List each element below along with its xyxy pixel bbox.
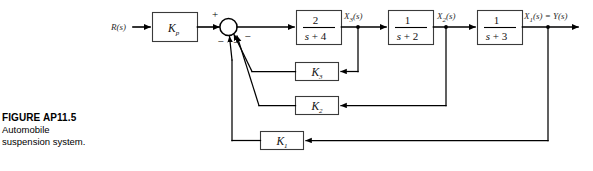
transfer-function-2-numerator: 1 [405,14,411,26]
signal-label-x2: X2(s) [436,11,456,24]
wire-k1-to-sum [230,37,233,61]
transfer-function-3-denominator: s + 3 [486,30,508,42]
input-label-rs: R(s) [110,22,126,32]
transfer-function-1-denominator: s + 4 [305,30,327,42]
summing-junction-minus-sign-3: − [245,30,251,42]
gain-k3: K3 [296,63,339,82]
transfer-function-2: 1 s + 2 [389,11,434,45]
summing-junction: + − − − [212,8,251,48]
transfer-function-1-numerator: 2 [313,14,319,26]
signal-label-x3: X3(s) [343,11,363,24]
transfer-function-1: 2 s + 4 [297,11,342,45]
output-label-x1-y: X1(s) = Y(s) [523,11,568,24]
wire-k2-to-sum [237,36,259,106]
transfer-function-3-numerator: 1 [494,14,500,26]
summing-junction-minus-sign-1: − [218,35,224,47]
transfer-function-2-denominator: s + 2 [397,30,419,42]
gain-k2: K2 [296,97,339,116]
transfer-function-3: 1 s + 3 [478,11,523,45]
gain-kp: Kp [153,13,198,42]
block-diagram: R(s) Kp + − − − 2 s + 4 [0,0,593,171]
summing-junction-circle [220,18,237,35]
gain-k1: K1 [261,132,304,151]
figure-ap11-5: FIGURE AP11.5 Automobile suspension syst… [0,0,593,171]
summing-junction-plus-sign: + [212,8,218,20]
